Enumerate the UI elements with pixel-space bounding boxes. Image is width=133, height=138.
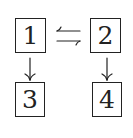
edges-layer [0, 0, 133, 138]
arrow-right-icon [57, 41, 80, 45]
arrow-down-icon [102, 58, 112, 80]
arrow-left-icon [57, 27, 80, 31]
arrow-down-icon [25, 58, 35, 80]
